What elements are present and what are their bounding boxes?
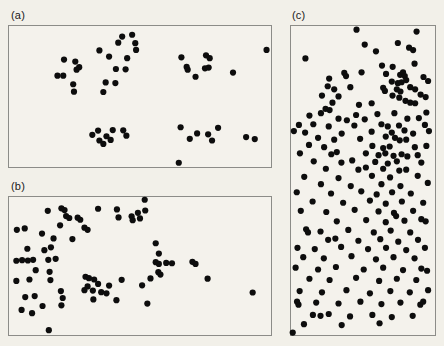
scatter-dot [383, 71, 389, 77]
scatter-dot [410, 130, 416, 136]
scatter-dot [362, 116, 368, 122]
scatter-dot [425, 287, 431, 293]
scatter-dot [22, 294, 28, 300]
scatter-dot [311, 158, 317, 164]
scatter-dot [85, 227, 91, 233]
scatter-dot [129, 32, 135, 38]
scatter-dot [389, 130, 395, 136]
scatter-dot [423, 94, 429, 100]
scatter-dot [331, 137, 337, 143]
scatter-dot [401, 127, 407, 133]
scatter-dot [340, 200, 346, 206]
scatter-dot [306, 113, 312, 119]
scatter-dot [317, 313, 323, 319]
scatter-dot [298, 208, 304, 214]
scatter-dot [89, 132, 95, 138]
scatter-dot [209, 137, 215, 143]
scatter-dot [113, 297, 119, 303]
scatter-dot [375, 208, 381, 214]
scatter-dot [383, 134, 389, 140]
scatter-dot [305, 229, 311, 235]
scatter-dot [378, 121, 384, 127]
scatter-dot [39, 230, 45, 236]
scatter-dot [321, 144, 327, 150]
scatter-dot [306, 142, 312, 148]
scatter-dot [399, 198, 405, 204]
scatter-dot [377, 236, 383, 242]
scatter-dot [108, 137, 114, 143]
scatter-dot [66, 215, 72, 221]
scatter-dot [390, 254, 396, 260]
scatter-dot [86, 275, 92, 281]
scatter-dot [394, 158, 400, 164]
panel-a-scatter-points [9, 26, 271, 167]
scatter-dot [13, 258, 19, 264]
scatter-dot [395, 239, 401, 245]
scatter-dot [326, 107, 332, 113]
scatter-dot [22, 225, 28, 231]
scatter-dot [425, 180, 431, 186]
scatter-dot [343, 287, 349, 293]
scatter-dot [294, 189, 300, 195]
scatter-dot [365, 246, 371, 252]
scatter-dot [318, 110, 324, 116]
scatter-dot [318, 181, 324, 187]
scatter-dot [77, 217, 83, 223]
scatter-dot [103, 79, 109, 85]
scatter-dot [355, 238, 361, 244]
scatter-dot [401, 218, 407, 224]
scatter-dot [50, 235, 56, 241]
scatter-dot [315, 266, 321, 272]
scatter-dot [385, 160, 391, 166]
scatter-dot [306, 276, 312, 282]
scatter-dot [13, 278, 19, 284]
scatter-dot [90, 296, 96, 302]
scatter-dot [422, 245, 428, 251]
scatter-dot [26, 276, 32, 282]
scatter-dot [207, 55, 213, 61]
scatter-dot [385, 123, 391, 129]
scatter-dot [115, 40, 121, 46]
scatter-dot [380, 265, 386, 271]
scatter-dot [252, 136, 258, 142]
scatter-dot [413, 277, 419, 283]
scatter-dot [46, 327, 52, 333]
scatter-dot [382, 88, 388, 94]
scatter-dot [206, 64, 212, 70]
scatter-dot [375, 152, 381, 158]
scatter-dot [301, 174, 307, 180]
scatter-dot [95, 206, 101, 212]
scatter-dot [373, 256, 379, 262]
scatter-dot [14, 227, 20, 233]
scatter-dot [95, 281, 101, 287]
scatter-dot [387, 288, 393, 294]
scatter-dot [335, 300, 341, 306]
scatter-dot [378, 301, 384, 307]
scatter-dot [74, 67, 80, 73]
scatter-dot [367, 197, 373, 203]
scatter-dot [420, 200, 426, 206]
scatter-dot [415, 152, 421, 158]
scatter-dot [410, 208, 416, 214]
scatter-dot [407, 289, 413, 295]
scatter-dot [343, 73, 349, 79]
scatter-dot [100, 89, 106, 95]
scatter-dot [215, 125, 221, 131]
scatter-dot [110, 127, 116, 133]
scatter-dot [326, 75, 332, 81]
scatter-dot [130, 217, 136, 223]
scatter-dot [415, 237, 421, 243]
scatter-dot [243, 134, 249, 140]
scatter-dot [313, 299, 319, 305]
scatter-dot [423, 143, 429, 149]
scatter-dot [144, 300, 150, 306]
scatter-dot [290, 329, 296, 335]
scatter-dot [156, 250, 162, 256]
panel-c-scatter-points [291, 26, 435, 335]
scatter-dot [69, 236, 75, 242]
scatter-dot [389, 92, 395, 98]
scatter-dot [98, 289, 104, 295]
scatter-dot [397, 299, 403, 305]
scatter-dot [371, 229, 377, 235]
scatter-dot [338, 159, 344, 165]
